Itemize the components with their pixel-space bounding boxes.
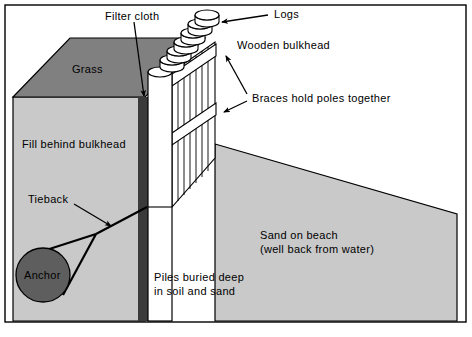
bulkhead-diagram: Filter cloth Logs Wooden bulkhead Braces… bbox=[0, 0, 472, 337]
label-piles-line2: in soil and sand bbox=[154, 285, 235, 297]
label-anchor: Anchor bbox=[24, 269, 61, 281]
label-wooden-bulkhead: Wooden bulkhead bbox=[237, 39, 330, 51]
wooden-bulkhead-leader bbox=[226, 56, 247, 94]
label-sand-line1: Sand on beach bbox=[260, 229, 338, 241]
label-filter-cloth: Filter cloth bbox=[105, 10, 159, 22]
logs-leader bbox=[222, 15, 268, 22]
braces-leader bbox=[224, 101, 247, 112]
label-logs: Logs bbox=[274, 8, 299, 20]
log-top-6 bbox=[195, 10, 219, 27]
label-tieback: Tieback bbox=[28, 193, 68, 205]
label-piles-line1: Piles buried deep bbox=[154, 271, 244, 283]
figure-container: Filter cloth Logs Wooden bulkhead Braces… bbox=[0, 0, 472, 337]
label-braces: Braces hold poles together bbox=[252, 92, 391, 104]
label-sand-line2: (well back from water) bbox=[260, 243, 374, 255]
label-grass: Grass bbox=[72, 63, 103, 75]
label-fill-behind-bulkhead: Fill behind bulkhead bbox=[22, 138, 126, 150]
